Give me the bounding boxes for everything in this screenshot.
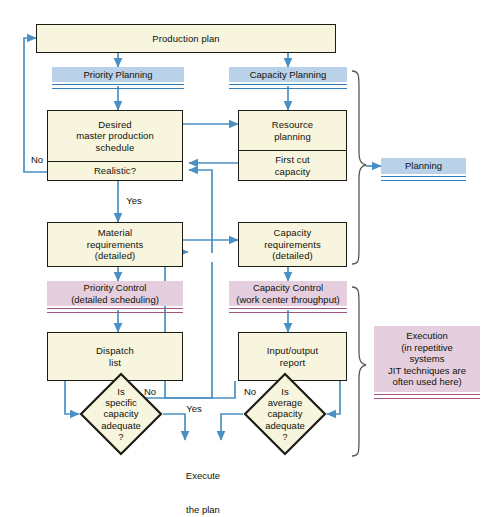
node-material-requirements[interactable]: Material requirements (detailed) xyxy=(47,222,183,267)
planning-group-rule-2 xyxy=(381,180,466,181)
first-cut-capacity[interactable]: First cut capacity xyxy=(239,150,346,180)
capacity-control-rule-1 xyxy=(229,308,347,309)
banner-priority-planning: Priority Planning xyxy=(52,67,184,82)
planning-group-rule-1 xyxy=(381,176,466,177)
banner-priority-control: Priority Control (detailed scheduling) xyxy=(47,281,183,306)
material-requirements-text: Material requirements (detailed) xyxy=(48,223,182,266)
production-plan-text: Production plan xyxy=(37,25,335,52)
execution-group-rule-1 xyxy=(374,394,480,395)
specific-capacity-text: Is specific capacity adequate ? xyxy=(101,386,141,442)
priority-planning-rule-1 xyxy=(52,84,184,85)
banner-capacity-planning: Capacity Planning xyxy=(229,67,347,82)
banner-capacity-control: Capacity Control (work center throughput… xyxy=(229,281,347,306)
edge-label-mps-no: No xyxy=(26,154,48,165)
capacity-requirements-text: Capacity requirements (detailed) xyxy=(239,223,346,266)
decision-specific-capacity[interactable]: Is specific capacity adequate ? xyxy=(79,372,163,456)
edge-label-specific-yes: Yes xyxy=(181,403,207,414)
resource-planning-text: Resource planning xyxy=(239,111,346,150)
label-execute-the-plan: Execute the plan xyxy=(172,447,234,517)
average-capacity-text: Is average capacity adequate ? xyxy=(265,386,305,442)
group-label-execution: Execution (in repetitive systems JIT tec… xyxy=(374,326,480,392)
node-resource-planning[interactable]: Resource planning First cut capacity xyxy=(238,110,347,181)
group-label-planning: Planning xyxy=(381,158,466,174)
flowchart-canvas: Production plan Priority Planning Capaci… xyxy=(0,0,488,517)
priority-control-rule-2 xyxy=(47,312,183,313)
mps-text: Desired master production schedule xyxy=(48,111,182,161)
node-master-production-schedule[interactable]: Desired master production schedule Reali… xyxy=(47,110,183,181)
capacity-planning-rule-1 xyxy=(229,84,347,85)
node-production-plan[interactable]: Production plan xyxy=(36,24,336,53)
priority-planning-rule-2 xyxy=(52,88,184,89)
execution-group-rule-2 xyxy=(374,398,480,399)
priority-control-rule-1 xyxy=(47,308,183,309)
node-capacity-requirements[interactable]: Capacity requirements (detailed) xyxy=(238,222,347,267)
edge-label-io-no: No xyxy=(239,386,261,397)
mps-realistic-check[interactable]: Realistic? xyxy=(48,161,182,180)
edge-label-dispatch-no: No xyxy=(139,386,161,397)
capacity-planning-rule-2 xyxy=(229,88,347,89)
decision-average-capacity[interactable]: Is average capacity adequate ? xyxy=(243,372,327,456)
edge-label-mps-yes: Yes xyxy=(122,195,146,206)
capacity-control-rule-2 xyxy=(229,312,347,313)
